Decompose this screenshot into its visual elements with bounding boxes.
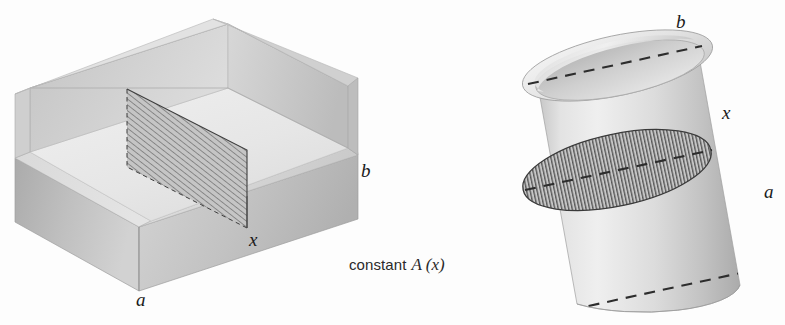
figure-caption: constantA (x) (349, 256, 445, 273)
calculus-volume-figure: a b x b x a constantA (x) (0, 0, 785, 325)
box-label-b: b (361, 161, 371, 180)
figure-canvas (0, 0, 785, 325)
rectangular-box-group (15, 19, 358, 291)
box-rim-right-cap (348, 78, 358, 155)
cylinder-label-a: a (764, 182, 774, 201)
box-label-a: a (136, 290, 146, 309)
box-label-x: x (249, 230, 257, 249)
box-rim-left-cap (15, 88, 30, 158)
cylinder-label-b: b (676, 12, 686, 31)
caption-word: constant (349, 256, 407, 273)
cylinder-group (516, 16, 754, 312)
cylinder-label-x: x (722, 103, 730, 122)
caption-math: A (x) (407, 255, 445, 274)
